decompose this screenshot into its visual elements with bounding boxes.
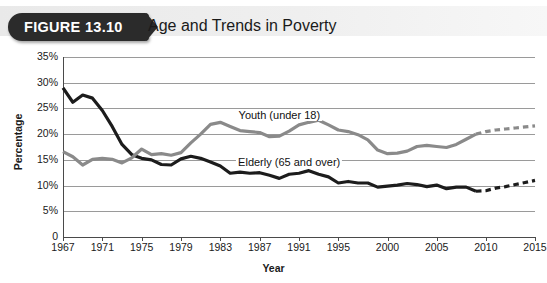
x-tick-label: 1971 xyxy=(91,241,114,253)
x-tick-label: 2005 xyxy=(425,241,448,253)
x-tick-label: 1983 xyxy=(209,241,232,253)
series-line xyxy=(476,180,535,191)
figure-title-bar: FIGURE 13.10 Age and Trends in Poverty xyxy=(0,6,547,36)
chart-plot-area: Percentage 05%10%15%20%25%30%35% 1967197… xyxy=(0,36,547,283)
page-title: Age and Trends in Poverty xyxy=(148,17,337,35)
x-tick-label: 1991 xyxy=(287,241,310,253)
x-tick-label: 2015 xyxy=(523,241,546,253)
x-tick-label: 1995 xyxy=(327,241,350,253)
x-tick-label: 2010 xyxy=(474,241,497,253)
x-tick-label: 1987 xyxy=(248,241,271,253)
series-line xyxy=(63,88,476,191)
x-tick-label: 1967 xyxy=(51,241,74,253)
x-tick-label: 1979 xyxy=(169,241,192,253)
series-annotation: Youth (under 18) xyxy=(237,109,323,121)
x-tick-label: 2000 xyxy=(376,241,399,253)
x-tick-label: 1975 xyxy=(130,241,153,253)
series-annotation: Elderly (65 and over) xyxy=(236,156,342,168)
x-axis-title: Year xyxy=(0,262,547,274)
figure-number-label: FIGURE 13.10 xyxy=(24,19,123,35)
series-line xyxy=(476,126,535,134)
